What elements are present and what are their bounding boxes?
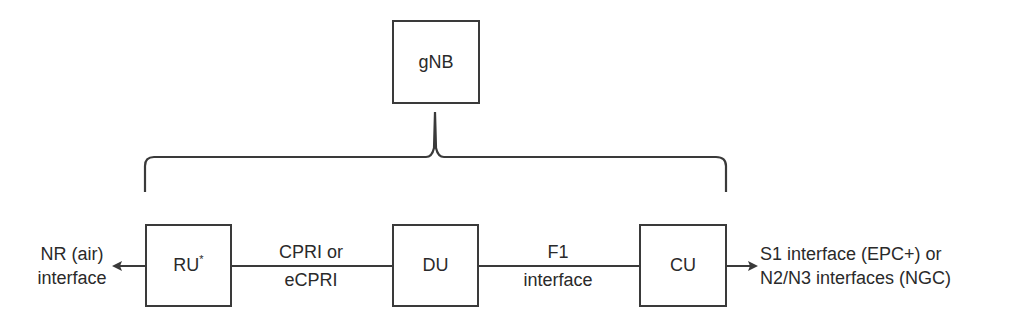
cu-label: CU	[670, 255, 696, 276]
ru-label: RU*	[173, 255, 203, 276]
ru-box: RU*	[145, 224, 232, 307]
du-label: DU	[423, 255, 449, 276]
du-box: DU	[392, 224, 479, 307]
gnb-label: gNB	[418, 52, 453, 73]
ru-superscript: *	[199, 253, 203, 265]
gnb-box: gNB	[392, 20, 480, 104]
cu-box: CU	[639, 224, 727, 307]
grouping-brace	[145, 112, 726, 192]
f1-link-label: F1 interface	[508, 240, 608, 292]
nr-air-interface-label: NR (air) interface	[32, 242, 112, 290]
core-interface-label: S1 interface (EPC+) or N2/N3 interfaces …	[760, 242, 951, 290]
cpri-link-label: CPRI or eCPRI	[261, 240, 361, 292]
